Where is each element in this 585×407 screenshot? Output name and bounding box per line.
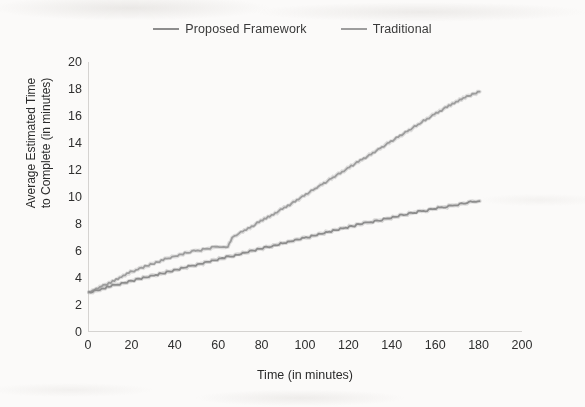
series-line-halo-traditional (89, 92, 480, 292)
x-axis-tick-labels: 020406080100120140160180200 (88, 338, 522, 358)
y-axis-tick-label: 12 (58, 163, 82, 177)
y-axis-title-line-1: Average Estimated Time (24, 38, 39, 248)
y-axis-title-line-2: to Complete (in minutes) (39, 38, 54, 248)
x-axis-tick-label: 40 (155, 338, 195, 352)
y-axis-tick-label: 2 (58, 298, 82, 312)
legend-label-traditional: Traditional (373, 22, 432, 36)
y-axis-tick-label: 16 (58, 109, 82, 123)
y-axis-tick-label: 8 (58, 217, 82, 231)
x-axis-tick-label: 80 (242, 338, 282, 352)
plot-area (88, 62, 522, 332)
y-axis-tick-label: 20 (58, 55, 82, 69)
legend-label-proposed-framework: Proposed Framework (185, 22, 306, 36)
legend-item-proposed-framework: Proposed Framework (153, 22, 306, 36)
series-line-halo-proposed-framework (89, 201, 480, 292)
series-canvas (89, 62, 523, 332)
line-swatch-icon (153, 28, 179, 30)
line-swatch-icon (341, 28, 367, 30)
y-axis-tick-label: 14 (58, 136, 82, 150)
y-axis-tick-label: 6 (58, 244, 82, 258)
legend-item-traditional: Traditional (341, 22, 432, 36)
y-axis-tick-labels: 02468101214161820 (56, 62, 82, 332)
y-axis-tick-label: 10 (58, 190, 82, 204)
chart-legend: Proposed Framework Traditional (0, 22, 585, 36)
x-axis-tick-label: 140 (372, 338, 412, 352)
x-axis-tick-label: 20 (111, 338, 151, 352)
line-chart: Proposed Framework Traditional 024681012… (0, 0, 585, 407)
x-axis-tick-label: 100 (285, 338, 325, 352)
x-axis-tick-label: 200 (502, 338, 542, 352)
y-axis-tick-label: 4 (58, 271, 82, 285)
x-axis-title: Time (in minutes) (88, 368, 522, 382)
y-axis-title: Average Estimated Time to Complete (in m… (24, 38, 54, 248)
x-axis-tick-label: 180 (459, 338, 499, 352)
x-axis-tick-label: 120 (328, 338, 368, 352)
x-axis-tick-label: 0 (68, 338, 108, 352)
x-axis-tick-label: 160 (415, 338, 455, 352)
y-axis-tick-label: 0 (58, 325, 82, 339)
x-axis-tick-label: 60 (198, 338, 238, 352)
y-axis-tick-label: 18 (58, 82, 82, 96)
